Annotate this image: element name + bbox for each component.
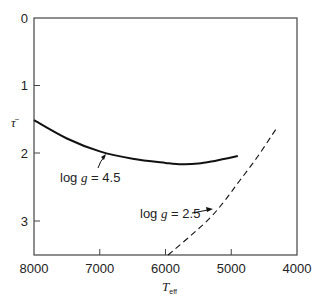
annotation-label-4-5: log g = 4.5 [60,170,120,185]
x-tick-label-7000: 7000 [85,261,114,276]
x-axis: 8000 7000 6000 5000 4000 Teff [20,249,312,295]
y-tick-label-2: 2 [21,146,28,161]
x-axis-label-sub: eff [169,288,177,295]
arrow-head-2-5 [206,207,213,212]
y-axis-label: τ̄ [11,115,20,130]
x-tick-label-8000: 8000 [20,261,49,276]
x-tick-label-4000: 4000 [283,261,312,276]
x-tick-label-6000: 6000 [151,261,180,276]
x-tick-label-5000: 5000 [217,261,246,276]
x-axis-label: Teff [162,279,177,295]
y-tick-label-1: 1 [21,78,28,93]
series-log-g-2-5 [168,129,276,255]
annotation-log-g-4-5: log g = 4.5 [60,154,120,185]
series-log-g-4-5 [34,120,238,164]
y-tick-label-3: 3 [21,214,28,229]
annotation-label-2-5: log g = 2.5 [140,206,200,221]
annotation-log-g-2-5: log g = 2.5 [140,206,213,221]
y-tick-label-0: 0 [21,11,28,26]
chart-canvas: 0 1 2 3 τ̄ 8000 7000 6000 5000 4000 Teff… [0,0,324,302]
